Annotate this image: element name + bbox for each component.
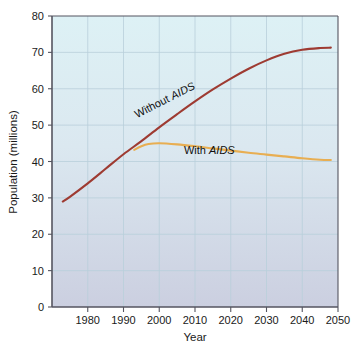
- x-axis-title: Year: [183, 331, 206, 343]
- y-tick-label: 10: [32, 265, 44, 277]
- x-tick-label: 2030: [254, 314, 278, 326]
- series-label-with-aids: With AIDS: [184, 144, 235, 156]
- y-tick-label: 20: [32, 228, 44, 240]
- y-tick-label: 60: [32, 83, 44, 95]
- y-tick-label: 50: [32, 119, 44, 131]
- series-label-acronym: AIDS: [208, 144, 235, 156]
- chart-canvas: 01020304050607080 1980199020002010202020…: [0, 0, 357, 347]
- y-tick-label: 0: [38, 301, 44, 313]
- x-tick-label: 1990: [111, 314, 135, 326]
- population-projection-chart: 01020304050607080 1980199020002010202020…: [0, 0, 357, 347]
- y-axis-tick-labels: 01020304050607080: [32, 10, 44, 313]
- x-tick-label: 2050: [326, 314, 350, 326]
- y-tick-label: 80: [32, 10, 44, 22]
- x-tick-label: 2040: [290, 314, 314, 326]
- x-tick-label: 2010: [183, 314, 207, 326]
- x-tick-label: 2000: [147, 314, 171, 326]
- y-tick-label: 70: [32, 46, 44, 58]
- y-tick-label: 30: [32, 192, 44, 204]
- y-tick-label: 40: [32, 156, 44, 168]
- x-tick-label: 1980: [76, 314, 100, 326]
- series-label-prefix: With: [184, 144, 209, 156]
- x-tick-label: 2020: [219, 314, 243, 326]
- y-axis-title: Population (millions): [7, 110, 19, 214]
